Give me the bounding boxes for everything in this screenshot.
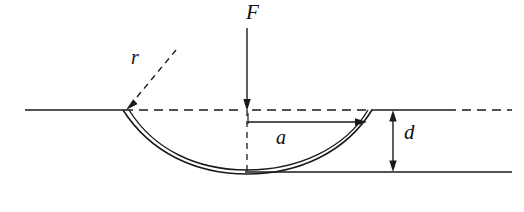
diagram-canvas — [0, 0, 524, 212]
depth-arrow-head-top — [389, 110, 396, 122]
half-width-label: a — [276, 127, 286, 147]
force-arrow-head — [243, 99, 250, 111]
depth-arrow-head-bottom — [389, 161, 396, 173]
radius-arrow-head — [126, 99, 138, 110]
depth-label: d — [404, 122, 415, 143]
dimple-load-diagram: F r a d — [0, 0, 524, 212]
force-label: F — [246, 2, 259, 23]
radius-label: r — [131, 47, 139, 67]
